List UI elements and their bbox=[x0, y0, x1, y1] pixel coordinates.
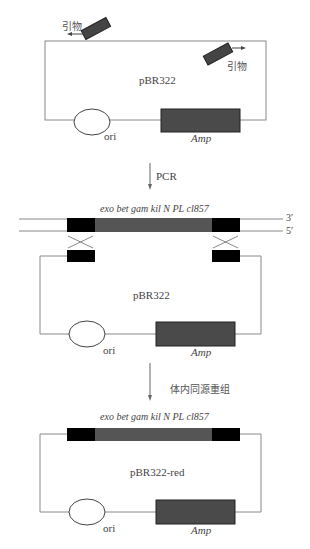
homology-arm-left bbox=[67, 428, 95, 441]
strand-bottom-label: 5′ bbox=[286, 225, 293, 236]
red-insert-block bbox=[95, 218, 212, 232]
homology-arm-right bbox=[212, 218, 240, 232]
red-insert-block bbox=[95, 428, 212, 441]
strand-top-label: 3′ bbox=[286, 212, 293, 223]
primer-right-label: 引物 bbox=[227, 58, 247, 73]
insert-label: exo bet gam kil N PL cl857 bbox=[100, 411, 209, 422]
plasmid-label: pBR322 bbox=[139, 74, 176, 86]
pcr-label: PCR bbox=[156, 170, 177, 182]
ori-ellipse bbox=[69, 499, 105, 525]
amp-label: Amp bbox=[191, 132, 211, 144]
homology-arm-left bbox=[67, 218, 95, 232]
plasmid-arm-right bbox=[212, 250, 240, 262]
ori-label: ori bbox=[103, 344, 115, 356]
amp-gene-block bbox=[156, 500, 235, 524]
plasmid-arm-left bbox=[67, 250, 95, 262]
insert-label: exo bet gam kil N PL cl857 bbox=[100, 203, 209, 214]
primer-left bbox=[81, 18, 110, 40]
amp-gene-block bbox=[156, 322, 235, 346]
ori-label: ori bbox=[104, 130, 116, 142]
plasmid-label: pBR322-red bbox=[130, 466, 184, 478]
panel2 bbox=[19, 218, 283, 347]
homology-arm-right bbox=[212, 428, 240, 441]
recombination-label: 体内同源重组 bbox=[170, 381, 230, 396]
amp-gene-block bbox=[161, 109, 240, 132]
primer-left-label: 引物 bbox=[62, 18, 82, 33]
amp-label: Amp bbox=[191, 524, 211, 536]
ori-ellipse bbox=[69, 321, 105, 347]
plasmid-label: pBR322 bbox=[133, 289, 170, 301]
ori-label: ori bbox=[103, 522, 115, 534]
amp-label: Amp bbox=[191, 346, 211, 358]
